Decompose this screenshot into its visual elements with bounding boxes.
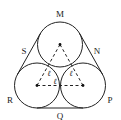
- label-q: Q: [57, 111, 64, 120]
- side-label-left: ℓ: [47, 69, 51, 78]
- label-r: R: [7, 95, 13, 105]
- circles: [15, 22, 106, 108]
- center-dot-bottom-right: [82, 84, 85, 87]
- label-m: M: [56, 9, 64, 19]
- label-s: S: [21, 46, 26, 56]
- three-circles-diagram: M N P Q R S ℓ ℓ ℓ: [0, 0, 121, 120]
- side-label-bottom: ℓ: [53, 77, 57, 86]
- center-points: [36, 43, 85, 87]
- label-n: N: [94, 46, 101, 56]
- label-p: P: [107, 95, 112, 105]
- center-dot-bottom-left: [36, 84, 39, 87]
- center-dot-top: [59, 43, 62, 46]
- side-label-right: ℓ: [69, 69, 73, 78]
- triangle-side-right: [60, 45, 83, 86]
- center-triangle: [37, 45, 83, 86]
